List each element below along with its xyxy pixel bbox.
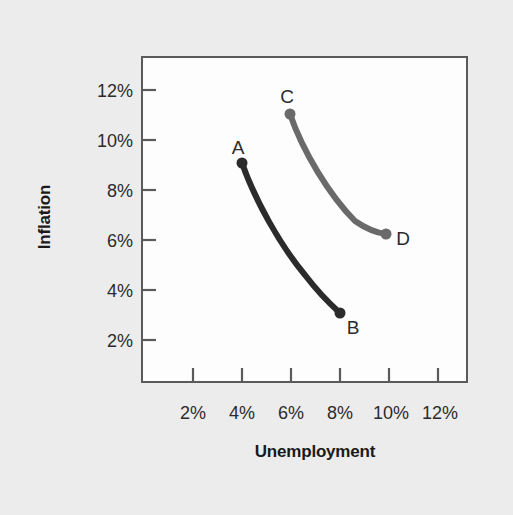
x-tick-label-4: 4% (229, 403, 255, 423)
x-axis-title: Unemployment (255, 442, 376, 461)
x-tick-label-12: 12% (422, 403, 458, 423)
y-tick-label-12: 12% (97, 81, 133, 101)
y-tick-label-8: 8% (107, 181, 133, 201)
data-point-d (381, 229, 392, 240)
chart-canvas: 12% 10% 8% 6% 4% 2% 2% 4% 6% 8% 10% 12% … (0, 0, 513, 515)
data-point-b (335, 308, 346, 319)
y-tick-label-4: 4% (107, 281, 133, 301)
data-point-a (237, 158, 248, 169)
x-tick-label-8: 8% (327, 403, 353, 423)
y-tick-label-6: 6% (107, 231, 133, 251)
y-axis-title: Inflation (35, 185, 54, 249)
label-point-a: A (232, 137, 245, 158)
label-point-c: C (280, 86, 294, 107)
y-tick-label-10: 10% (97, 131, 133, 151)
y-tick-label-2: 2% (107, 331, 133, 351)
x-tick-label-2: 2% (180, 403, 206, 423)
plot-area-frame (142, 57, 467, 382)
label-point-b: B (347, 317, 360, 338)
label-point-d: D (396, 228, 410, 249)
x-tick-label-6: 6% (278, 403, 304, 423)
data-point-c (285, 109, 296, 120)
x-tick-label-10: 10% (373, 403, 409, 423)
